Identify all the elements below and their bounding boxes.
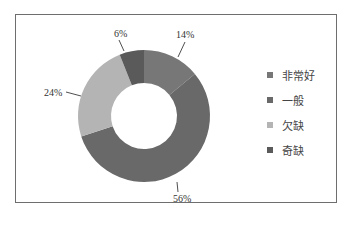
label-severely-lacking-percent: 6% xyxy=(114,28,127,39)
legend-label: 一般 xyxy=(282,92,304,108)
leader-line-24 xyxy=(66,92,81,96)
legend-item-severely-lacking: 奇缺 xyxy=(267,141,315,158)
donut-slice xyxy=(78,55,132,137)
legend: 非常好 一般 欠缺 奇缺 xyxy=(267,66,315,166)
leader-line-6 xyxy=(119,40,124,51)
legend-swatch-icon xyxy=(267,97,273,103)
label-very-good-percent: 14% xyxy=(176,29,194,40)
leader-line-56 xyxy=(177,182,178,192)
legend-label: 欠缺 xyxy=(282,117,304,133)
legend-item-lacking: 欠缺 xyxy=(267,116,315,133)
legend-label: 奇缺 xyxy=(282,142,304,158)
legend-item-very-good: 非常好 xyxy=(267,66,315,83)
legend-label: 非常好 xyxy=(282,67,315,83)
donut-slices xyxy=(78,50,210,182)
label-lacking-percent: 24% xyxy=(44,87,62,98)
leader-line-14 xyxy=(178,42,185,57)
legend-item-average: 一般 xyxy=(267,91,315,108)
legend-swatch-icon xyxy=(267,122,273,128)
legend-swatch-icon xyxy=(267,72,273,78)
legend-swatch-icon xyxy=(267,147,273,153)
label-average-percent: 56% xyxy=(173,193,191,204)
